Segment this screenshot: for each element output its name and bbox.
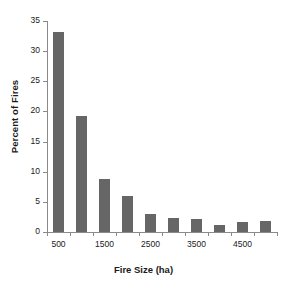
y-axis-tick-label: 0 xyxy=(35,226,40,236)
y-axis-tick-label: 10 xyxy=(31,166,40,176)
y-axis-tick-label: 5 xyxy=(35,196,40,206)
y-axis-tick: 10 xyxy=(43,172,47,173)
bar xyxy=(168,218,180,232)
y-axis-title: Percent of Fires xyxy=(6,0,24,232)
bar xyxy=(260,221,272,232)
bar xyxy=(122,196,134,232)
y-axis-tick: 30 xyxy=(43,51,47,52)
x-axis-tick-label: 500 xyxy=(51,239,65,249)
x-axis-tick xyxy=(254,232,255,236)
x-axis-title: Fire Size (ha) xyxy=(0,264,287,275)
y-axis-tick: 5 xyxy=(43,202,47,203)
x-axis-tick xyxy=(231,232,232,236)
x-axis-tick xyxy=(277,232,278,236)
x-axis-tick xyxy=(185,232,186,236)
y-axis-tick-label: 20 xyxy=(31,105,40,115)
x-axis-tick xyxy=(47,232,48,236)
histogram-figure: Percent of Fires 05101520253035 50015002… xyxy=(0,0,287,299)
y-axis-tick-label: 15 xyxy=(31,136,40,146)
x-axis-tick xyxy=(139,232,140,236)
bar xyxy=(214,225,226,232)
x-axis-tick-label: 4500 xyxy=(233,239,252,249)
y-axis-tick: 20 xyxy=(43,111,47,112)
x-axis-tick-label: 3500 xyxy=(187,239,206,249)
x-axis-tick-label: 2500 xyxy=(141,239,160,249)
x-axis-tick xyxy=(116,232,117,236)
x-axis-tick xyxy=(162,232,163,236)
y-axis-tick-label: 30 xyxy=(31,45,40,55)
bar xyxy=(76,116,88,232)
y-axis-tick-label: 35 xyxy=(31,15,40,25)
y-axis-tick: 15 xyxy=(43,142,47,143)
y-axis-line xyxy=(47,21,48,232)
bar xyxy=(53,32,65,232)
x-axis-tick xyxy=(93,232,94,236)
x-axis-tick-label: 1500 xyxy=(95,239,114,249)
plot-area: 05101520253035 5001500250035004500 xyxy=(47,21,277,232)
x-axis-tick xyxy=(208,232,209,236)
bar xyxy=(191,219,203,232)
y-axis-tick-label: 25 xyxy=(31,75,40,85)
bar xyxy=(145,214,157,232)
y-axis-tick: 35 xyxy=(43,21,47,22)
y-axis-title-text: Percent of Fires xyxy=(10,79,21,152)
y-axis-tick: 25 xyxy=(43,81,47,82)
bar xyxy=(237,222,249,232)
x-axis-tick xyxy=(70,232,71,236)
bar xyxy=(99,179,111,232)
